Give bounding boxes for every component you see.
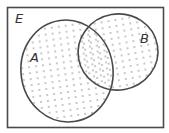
- venn-diagram: E A B: [0, 0, 169, 133]
- set-b-label: B: [140, 31, 149, 46]
- set-a-label: A: [29, 50, 39, 65]
- universe-label: E: [15, 11, 24, 26]
